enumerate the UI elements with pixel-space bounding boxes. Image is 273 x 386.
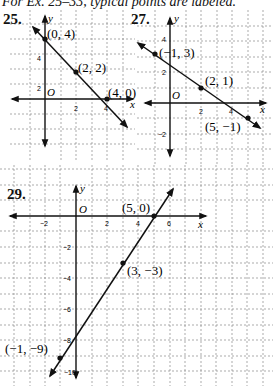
svg-text:y: y [47,12,53,24]
svg-text:(2, 1): (2, 1) [205,73,233,88]
svg-text:(−1, 3): (−1, 3) [159,45,195,60]
svg-text:x: x [259,103,265,115]
svg-text:4: 4 [104,105,108,112]
svg-text:O: O [79,203,87,215]
svg-text:−8: −8 [63,337,71,344]
svg-text:2: 2 [105,220,109,227]
svg-text:(2, 2): (2, 2) [78,60,106,75]
svg-text:2: 2 [162,69,166,76]
svg-text:−4: −4 [63,275,71,282]
svg-text:(−1, −9): (−1, −9) [5,341,48,356]
svg-text:(3, −3): (3, −3) [127,263,163,278]
graphs-canvas: (0, 4) (2, 2) (4, 0) 4 2 2 4 O x y (−1, … [0,0,273,386]
svg-text:−2: −2 [63,244,71,251]
exercise-25-number: 25. [3,11,22,28]
svg-text:−6: −6 [63,306,71,313]
svg-text:−2: −2 [40,220,48,227]
svg-text:−10: −10 [64,369,76,376]
exercise-27-number: 27. [131,11,150,28]
graph-27: (−1, 3) (2, 1) (5, −1) 4 2 −2 2 4 O x y [137,10,273,165]
svg-text:2: 2 [199,108,203,115]
svg-text:4: 4 [136,220,140,227]
exercise-29-number: 29. [7,186,26,203]
svg-text:O: O [47,86,55,98]
svg-text:4: 4 [229,108,233,115]
graph-25: (0, 4) (2, 2) (4, 0) 4 2 2 4 O x y [10,10,136,160]
svg-text:y: y [79,182,85,194]
svg-text:(5, 0): (5, 0) [122,200,150,215]
svg-text:6: 6 [167,220,171,227]
svg-text:y: y [173,12,179,24]
svg-text:x: x [197,218,203,230]
graph-29: (5, 0) (3, −3) (−1, −9) −2 2 4 6 −2 −4 −… [0,165,273,386]
svg-text:4: 4 [37,55,41,62]
svg-text:−2: −2 [158,131,166,138]
svg-text:(5, −1): (5, −1) [205,119,241,134]
svg-text:2: 2 [74,105,78,112]
svg-text:O: O [172,89,180,101]
svg-text:2: 2 [37,85,41,92]
svg-text:4: 4 [162,36,166,43]
svg-text:x: x [129,98,135,110]
svg-text:(0, 4): (0, 4) [47,26,75,41]
